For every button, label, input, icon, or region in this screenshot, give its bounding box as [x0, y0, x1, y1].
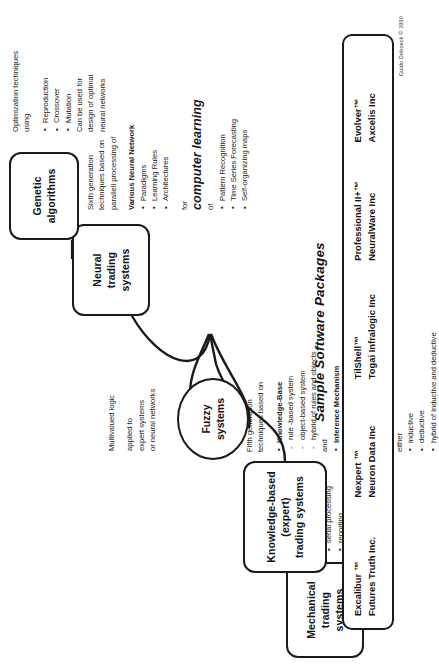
package-cell[interactable]: Excalibur ™ Futures Truth Inc. [344, 510, 392, 628]
list-item: hybrid of inductive and deductive [428, 332, 439, 443]
node-genetic-algorithms[interactable]: Genetic algorithms [9, 152, 79, 240]
package-vendor: Axcelis Inc [365, 36, 379, 142]
list-item: object-based system [297, 332, 308, 440]
node-genetic-label: Genetic algorithms [30, 169, 58, 224]
list-item: rule -based system [285, 332, 296, 440]
inference-list: Inference Mechanism [331, 332, 342, 452]
list-item: Reproduction [40, 22, 51, 123]
list-item: deductive [416, 332, 427, 443]
knowledge-base-header: Knowledge-Base [274, 332, 285, 443]
inference-mechanism-item: Inference Mechanism [331, 332, 342, 443]
genetic-tail-3: neural networks [97, 22, 108, 132]
knowledge-base-list: Knowledge-Base [274, 332, 285, 452]
fuzzy-line-4: or neural networks [147, 359, 158, 451]
fuzzy-line-1: Multivalued logic [106, 359, 117, 451]
neural-for: for [179, 90, 190, 210]
computer-learning-headline: computer learning [190, 90, 205, 210]
node-neural-trading-systems[interactable]: Neural trading systems [72, 224, 150, 316]
package-product: Excalibur ™ [351, 510, 365, 616]
knowledge-lead-2: techniques based on [255, 332, 266, 452]
package-product: Nexpert ™ [351, 391, 365, 497]
package-product: TilShell™ [351, 273, 365, 379]
package-cell[interactable]: TilShell™ Togai Infralogic Inc [344, 273, 392, 391]
reasoning-list: inductive deductive hybrid of inductive … [405, 332, 439, 452]
list-item: Paradigms [138, 90, 149, 201]
list-item: Pattern Recognition [217, 90, 228, 201]
annotation-genetic: Optimization techniques using Reproducti… [10, 22, 108, 132]
genetic-tail-2: design of optimal [85, 22, 96, 132]
genetic-tail-1: Can be used for [74, 22, 85, 132]
fuzzy-line-2: applied to [124, 359, 135, 451]
genetic-lead-2: using [21, 22, 32, 132]
genetic-lead-1: Optimization techniques [10, 22, 21, 132]
neural-network-header: Various Neural Network [126, 90, 137, 210]
annotation-neural: Sixth generation techniques based on par… [85, 90, 251, 210]
package-vendor: Futures Truth Inc. [365, 510, 379, 616]
fuzzy-line-3: expert systems [136, 359, 147, 451]
node-fuzzy-label: Fuzzy systems [199, 398, 227, 440]
package-product: Professional II+™ [351, 154, 365, 260]
annotation-fuzzy: Multivalued logic applied to expert syst… [106, 359, 159, 451]
package-vendor: Togai Infralogic Inc [365, 273, 379, 379]
node-neural-label: Neural trading systems [90, 249, 133, 292]
package-product: Evolver™ [351, 36, 365, 142]
sample-software-packages-panel: Excalibur ™ Futures Truth Inc. Nexpert ™… [342, 34, 394, 630]
list-item: Time Series Forecasting [228, 90, 239, 201]
neural-network-list: Paradigms Learning Rules Architectures [138, 90, 172, 210]
node-fuzzy-systems[interactable]: Fuzzy systems [177, 378, 249, 460]
node-knowledge-label: Knowledge-based (expert) trading systems [264, 471, 307, 562]
genetic-bullet-list: Reproduction Crossover Mutation [40, 22, 74, 132]
list-item: inductive [405, 332, 416, 443]
neural-lead-3: parallell processing of [108, 90, 119, 210]
package-vendor: Neuron Data Inc [365, 391, 379, 497]
package-cell[interactable]: Nexpert ™ Neuron Data Inc [344, 391, 392, 509]
list-item: Self-organizing maps [239, 90, 250, 201]
list-item: Architectures [160, 90, 171, 201]
list-item: Crossover [51, 22, 62, 123]
list-item: Mutation [63, 22, 74, 123]
copyright-credit: Guido Deboeck © 1990 [398, 16, 404, 76]
package-vendor: NeuralWare Inc [365, 154, 379, 260]
sample-software-packages-title: Sample Software Packages [312, 0, 327, 664]
package-cell[interactable]: Evolver™ Axcelis Inc [344, 36, 392, 154]
knowledge-either: either [394, 332, 405, 452]
learning-list: Pattern Recognition Time Series Forecast… [217, 90, 251, 210]
package-cell[interactable]: Professional II+™ NeuralWare Inc [344, 154, 392, 272]
list-item: Learning Rules [149, 90, 160, 201]
neural-of: of [205, 90, 216, 210]
